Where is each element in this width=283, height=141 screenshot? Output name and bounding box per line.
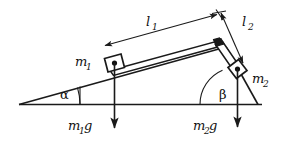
label-l1-letter: l [146,14,150,29]
label-m1g: m 1 g [68,118,92,136]
dimension-line-l1 [105,15,217,46]
diagram-canvas: l 1 l 2 m 1 m 2 α β m 1 g m [0,0,283,141]
label-l2-subscript: 2 [247,22,254,32]
label-l1: l 1 [146,14,158,32]
label-m1-subscript: 1 [86,62,92,72]
label-angle-beta: β [219,87,227,102]
label-l2-letter: l [242,14,246,29]
rod-l1-body [110,42,220,76]
physics-diagram-figure: l 1 l 2 m 1 m 2 α β m 1 g m [0,0,283,141]
label-angle-alpha: α [60,87,69,102]
label-m2g: m 2 g [193,118,217,136]
label-m1: m 1 [75,54,92,72]
label-m1g-gravity: g [84,118,92,133]
label-m2-subscript: 2 [262,79,269,89]
incline-line [19,47,226,105]
rod-l1 [110,38,223,76]
label-m2g-gravity: g [209,118,217,133]
label-l2: l 2 [242,14,254,32]
label-l1-subscript: 1 [152,22,158,32]
label-m2: m 2 [252,71,269,89]
